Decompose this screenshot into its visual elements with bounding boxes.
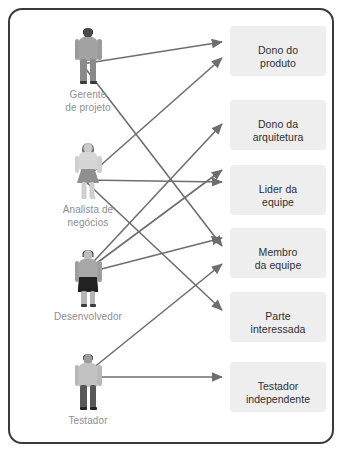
- role-chip-label: Testador independente: [246, 380, 310, 405]
- role-chip-testador-independente[interactable]: Testador independente: [230, 362, 326, 412]
- person-male-icon: [70, 28, 106, 86]
- diagram-frame: Gerente de projeto Analista de negócios: [8, 8, 334, 444]
- role-chip-label: Dono da arquitetura: [253, 118, 304, 143]
- actor-label: Desenvolvedor: [40, 311, 136, 324]
- actor-desenvolvedor[interactable]: Desenvolvedor: [40, 250, 136, 324]
- actor-label: Testador: [40, 415, 136, 428]
- actor-analista-de-negocios[interactable]: Analista de negócios: [40, 143, 136, 229]
- person-female-icon: [70, 143, 106, 201]
- actor-label: Analista de negócios: [40, 204, 136, 229]
- role-chip-label: Lider da equipe: [259, 183, 297, 208]
- role-chip-dono-da-arquitetura[interactable]: Dono da arquitetura: [230, 100, 326, 150]
- role-chip-membro-da-equipe[interactable]: Membro da equipe: [230, 228, 326, 278]
- person-developer-icon: [70, 250, 106, 308]
- role-chip-dono-do-produto[interactable]: Dono do produto: [230, 26, 326, 76]
- actor-label: Gerente de projeto: [40, 89, 136, 114]
- person-tester-icon: [70, 354, 106, 412]
- actor-gerente-de-projeto[interactable]: Gerente de projeto: [40, 28, 136, 114]
- role-chip-lider-da-equipe[interactable]: Lider da equipe: [230, 165, 326, 215]
- role-chip-parte-interessada[interactable]: Parte interessada: [230, 292, 326, 342]
- actor-testador[interactable]: Testador: [40, 354, 136, 428]
- role-chip-label: Dono do produto: [258, 44, 298, 69]
- role-chip-label: Parte interessada: [251, 310, 306, 335]
- role-chip-label: Membro da equipe: [255, 246, 302, 271]
